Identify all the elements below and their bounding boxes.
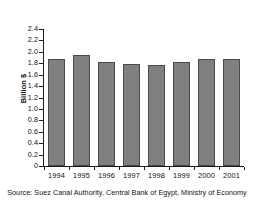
x-axis-tick [44, 167, 45, 170]
y-axis-tick-label: 0.8 [0, 116, 38, 123]
y-axis-tick-label: 1.6 [0, 71, 38, 78]
y-axis-tick-label: 2.4 [0, 25, 38, 32]
y-axis-tick-label: 1.0 [0, 105, 38, 112]
x-axis-tick [94, 167, 95, 170]
bar [223, 59, 240, 166]
y-axis-tick-label: 0.2 [0, 151, 38, 158]
source-note: Source: Suez Canal Authority, Central Ba… [0, 188, 254, 197]
y-axis-tick-label: 1.2 [0, 94, 38, 101]
x-axis-tick [144, 167, 145, 170]
y-axis-tick-label: 0.4 [0, 139, 38, 146]
bar-chart-figure: Billion $ 2.42.22.01.81.61.41.21.00.80.6… [0, 0, 254, 203]
x-axis-tick [69, 167, 70, 170]
bar [198, 59, 215, 166]
bar [73, 55, 90, 166]
bar [98, 62, 115, 166]
bar [148, 65, 165, 166]
bar [123, 64, 140, 166]
y-axis-tick-label: 1.4 [0, 82, 38, 89]
x-axis-tick [244, 167, 245, 170]
y-axis-tick-label: 0 [0, 162, 38, 169]
x-axis-tick [219, 167, 220, 170]
y-axis-tick-label: 1.8 [0, 59, 38, 66]
bar [173, 62, 190, 166]
x-axis-tick [169, 167, 170, 170]
plot-area [44, 26, 244, 166]
x-axis-tick [119, 167, 120, 170]
x-axis-tick [194, 167, 195, 170]
y-axis-tick-label: 2.0 [0, 48, 38, 55]
y-axis-tick-label: 2.2 [0, 36, 38, 43]
x-axis-tick-label: 2001 [215, 171, 249, 180]
y-axis-tick-label: 0.6 [0, 128, 38, 135]
bar [48, 59, 65, 166]
